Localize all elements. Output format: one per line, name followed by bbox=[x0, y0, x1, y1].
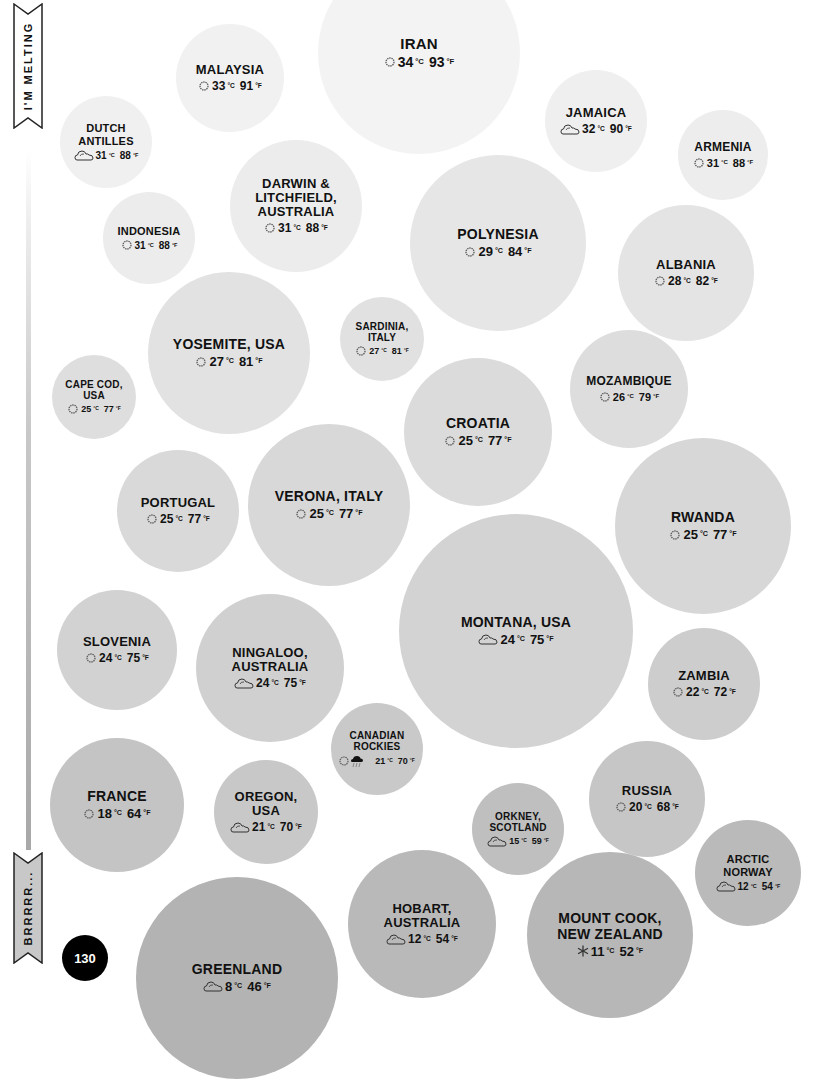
temperature-reading: 12°C54°F bbox=[716, 880, 781, 893]
celsius-value: 21 bbox=[375, 756, 385, 766]
celsius-value: 28 bbox=[668, 274, 681, 288]
destination-name: HOBART, AUSTRALIA bbox=[360, 902, 484, 931]
celsius-unit: °C bbox=[114, 809, 122, 817]
hot-label: I'M MELTING bbox=[22, 22, 34, 111]
destination-bubble: CANADIAN ROCKIES 21°C70°F bbox=[331, 703, 423, 795]
fahrenheit-value: 70 bbox=[398, 756, 408, 766]
fahrenheit-unit: °F bbox=[295, 823, 302, 830]
fahrenheit-value: 54 bbox=[762, 881, 773, 892]
destination-bubble: PORTUGAL 25°C77°F bbox=[117, 450, 239, 572]
fahrenheit-unit: °F bbox=[729, 688, 736, 695]
destination-bubble: ALBANIA 28°C82°F bbox=[618, 205, 754, 341]
sun-and-storm-cloud-icon bbox=[339, 754, 373, 768]
celsius-unit: °C bbox=[415, 57, 424, 66]
celsius-unit: °C bbox=[627, 393, 634, 399]
destination-name: SLOVENIA bbox=[83, 635, 151, 649]
fahrenheit-unit: °F bbox=[775, 883, 781, 889]
destination-name: CAPE COD, USA bbox=[59, 379, 129, 401]
celsius-unit: °C bbox=[700, 530, 708, 538]
destination-name: MALAYSIA bbox=[196, 63, 264, 77]
fahrenheit-value: 93 bbox=[429, 54, 445, 70]
temperature-reading: 25°C77°F bbox=[669, 527, 736, 542]
fahrenheit-value: 77 bbox=[188, 512, 201, 526]
sun-icon bbox=[295, 508, 307, 520]
celsius-unit: °C bbox=[175, 515, 182, 522]
fahrenheit-unit: °F bbox=[711, 277, 718, 284]
celsius-value: 21 bbox=[252, 820, 265, 834]
cloud-sun-icon bbox=[478, 633, 498, 646]
destination-name: ARCTIC NORWAY bbox=[703, 853, 793, 877]
celsius-unit: °C bbox=[751, 883, 757, 889]
fahrenheit-unit: °F bbox=[653, 393, 659, 399]
cloud-sun-icon bbox=[560, 123, 580, 136]
sun-icon bbox=[355, 345, 367, 357]
fahrenheit-value: 68 bbox=[657, 800, 670, 814]
fahrenheit-value: 46 bbox=[247, 979, 261, 994]
temperature-reading: 8°C46°F bbox=[203, 979, 271, 994]
celsius-unit: °C bbox=[495, 247, 503, 255]
sun-icon bbox=[264, 222, 276, 234]
destination-bubble: IRAN 34°C93°F bbox=[318, 0, 520, 154]
sun-icon bbox=[198, 80, 210, 92]
celsius-unit: °C bbox=[109, 152, 115, 158]
destination-name: GREENLAND bbox=[192, 962, 282, 977]
celsius-value: 31 bbox=[707, 157, 719, 169]
sun-icon bbox=[121, 239, 133, 251]
celsius-unit: °C bbox=[597, 125, 604, 132]
destination-name: RWANDA bbox=[671, 510, 735, 525]
fahrenheit-value: 52 bbox=[620, 944, 634, 959]
destination-bubble: DARWIN & LITCHFIELD, AUSTRALIA 31°C88°F bbox=[230, 140, 362, 272]
temperature-reading: 31°C88°F bbox=[264, 221, 328, 235]
destination-name: POLYNESIA bbox=[457, 227, 538, 242]
destination-bubble: POLYNESIA 29°C84°F bbox=[410, 155, 586, 331]
celsius-value: 25 bbox=[309, 506, 323, 521]
temperature-reading: 27°C81°F bbox=[195, 354, 262, 369]
destination-bubble: MOZAMBIQUE 26°C79°F bbox=[570, 330, 688, 448]
destination-bubble: MONTANA, USA 24°C75°F bbox=[399, 514, 633, 748]
celsius-unit: °C bbox=[271, 679, 278, 686]
fahrenheit-unit: °F bbox=[544, 838, 549, 843]
fahrenheit-value: 91 bbox=[240, 79, 253, 93]
celsius-value: 34 bbox=[398, 54, 414, 70]
temperature-reading: 20°C68°F bbox=[615, 800, 679, 814]
fahrenheit-value: 77 bbox=[488, 433, 502, 448]
temperature-reading: 25°C77°F bbox=[444, 433, 511, 448]
celsius-unit: °C bbox=[114, 654, 121, 661]
sun-icon bbox=[444, 435, 456, 447]
fahrenheit-value: 59 bbox=[532, 836, 542, 846]
fahrenheit-value: 75 bbox=[530, 632, 544, 647]
temperature-reading: 24°C75°F bbox=[85, 651, 149, 665]
destination-name: ZAMBIA bbox=[678, 669, 730, 683]
fahrenheit-value: 88 bbox=[733, 157, 745, 169]
cloud-sun-icon bbox=[386, 933, 406, 946]
destination-name: MONTANA, USA bbox=[461, 615, 571, 630]
sun-icon bbox=[85, 652, 97, 664]
celsius-unit: °C bbox=[387, 758, 393, 763]
destination-name: MOUNT COOK, NEW ZEALAND bbox=[540, 911, 680, 942]
destination-name: MOZAMBIQUE bbox=[586, 375, 671, 388]
fahrenheit-unit: °F bbox=[447, 57, 455, 66]
destination-name: CANADIAN ROCKIES bbox=[338, 730, 416, 752]
celsius-unit: °C bbox=[227, 82, 234, 89]
fahrenheit-value: 54 bbox=[436, 932, 449, 946]
sun-icon bbox=[654, 275, 666, 287]
celsius-unit: °C bbox=[381, 348, 387, 353]
fahrenheit-value: 88 bbox=[120, 150, 131, 161]
celsius-unit: °C bbox=[517, 635, 525, 643]
cloud-sun-icon bbox=[487, 835, 507, 848]
cloud-sun-icon bbox=[74, 149, 94, 162]
temperature-reading: 25°C77°F bbox=[295, 506, 362, 521]
cloud-sun-icon bbox=[230, 821, 250, 834]
celsius-unit: °C bbox=[423, 935, 430, 942]
celsius-value: 27 bbox=[369, 346, 379, 356]
destination-bubble: GREENLAND 8°C46°F bbox=[136, 877, 338, 1079]
celsius-unit: °C bbox=[326, 509, 334, 517]
sun-icon bbox=[693, 157, 705, 169]
fahrenheit-unit: °F bbox=[321, 224, 328, 231]
celsius-unit: °C bbox=[475, 436, 483, 444]
fahrenheit-value: 70 bbox=[280, 820, 293, 834]
fahrenheit-unit: °F bbox=[143, 809, 150, 817]
celsius-unit: °C bbox=[701, 688, 708, 695]
destination-bubble: FRANCE 18°C64°F bbox=[50, 738, 184, 872]
fahrenheit-unit: °F bbox=[142, 654, 149, 661]
